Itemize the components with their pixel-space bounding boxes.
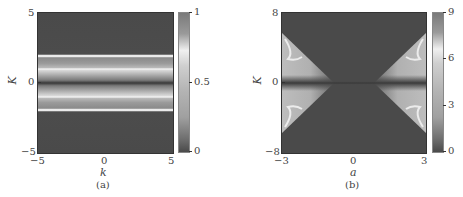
ytick-b-top: 8: [272, 8, 278, 18]
cbar-b-label-6: 6: [448, 53, 454, 63]
xtick-a-left: −5: [30, 156, 45, 166]
xtick-b-left: −3: [274, 156, 289, 166]
ytick-mark-a-zero: [37, 82, 41, 83]
ytick-b-mid: 0: [272, 77, 278, 87]
ytick-a-top: 5: [28, 8, 34, 18]
ytick-a-mid: 0: [28, 77, 34, 87]
heatmap-a-graphic: [38, 13, 173, 153]
cbar-b-label-0: 0: [448, 146, 454, 156]
cbar-a-tick-0: [189, 151, 192, 152]
cbar-a-label-05: 0.5: [194, 77, 210, 87]
ylabel-a: K: [6, 76, 19, 84]
colorbar-b: [432, 12, 444, 153]
cbar-b-label-9: 9: [448, 7, 454, 17]
caption-b: (b): [345, 179, 359, 190]
cbar-a-label-0: 0: [194, 146, 200, 156]
cbar-a-label-1: 1: [194, 7, 200, 17]
xtick-a-right: 5: [168, 156, 174, 166]
xlabel-b: a: [350, 166, 357, 179]
heatmap-b: [281, 12, 427, 154]
cbar-a-tick-05: [189, 82, 192, 83]
xtick-a-mid: 0: [101, 156, 107, 166]
cbar-b-tick-3: [443, 105, 446, 106]
cbar-b-tick-0: [443, 151, 446, 152]
cbar-a-tick-1: [189, 12, 192, 13]
xlabel-a: k: [100, 166, 107, 179]
ylabel-b: K: [251, 76, 264, 84]
xtick-b-mid: 0: [350, 156, 356, 166]
ytick-mark-b-zero: [281, 82, 285, 83]
heatmap-b-graphic: [282, 13, 426, 153]
cbar-b-tick-6: [443, 58, 446, 59]
cbar-b-tick-9: [443, 12, 446, 13]
caption-a: (a): [96, 179, 110, 190]
heatmap-a: [37, 12, 174, 154]
xtick-b-right: 3: [421, 156, 427, 166]
cbar-b-label-3: 3: [448, 100, 454, 110]
